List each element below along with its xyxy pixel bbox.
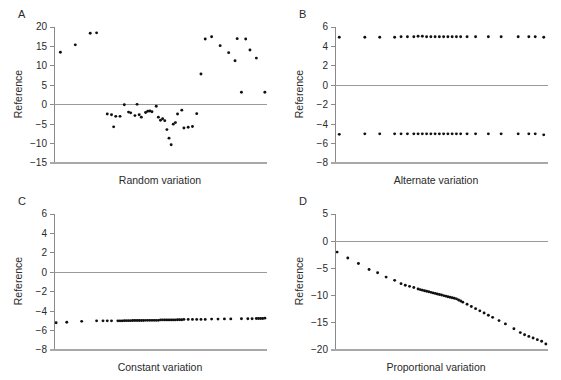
data-point	[182, 318, 185, 321]
data-point	[219, 44, 222, 47]
data-point	[263, 91, 266, 94]
data-point	[474, 35, 477, 38]
data-point	[542, 36, 545, 39]
data-point	[210, 35, 213, 38]
data-point	[110, 319, 113, 322]
data-point	[466, 35, 469, 38]
data-point	[129, 111, 132, 114]
data-point	[527, 35, 530, 38]
figure-canvas: A Reference 20151050−5−10−15 Random vari…	[0, 0, 561, 380]
y-tick-label: −15	[30, 157, 47, 168]
y-tick-label: 20	[36, 21, 48, 32]
data-point	[438, 35, 441, 38]
y-tick-label: 2	[41, 247, 47, 258]
y-tick-label: 5	[322, 208, 328, 219]
data-point	[157, 116, 160, 119]
data-point	[227, 51, 230, 54]
data-point	[244, 38, 247, 41]
data-point	[80, 320, 83, 323]
y-tick-label: −2	[317, 99, 329, 110]
y-tick-label: 0	[322, 236, 328, 247]
data-point	[55, 321, 58, 324]
data-point	[421, 35, 424, 38]
data-point	[487, 35, 490, 38]
y-tick-label: 2	[322, 60, 328, 71]
data-point	[540, 340, 543, 343]
data-point	[65, 321, 68, 324]
data-point	[170, 143, 173, 146]
y-tick-label: 6	[322, 21, 328, 32]
data-point	[95, 31, 98, 34]
panel-c-xlabel: Constant variation	[60, 361, 260, 373]
data-point	[59, 51, 62, 54]
data-point	[408, 285, 411, 288]
data-point	[455, 132, 458, 135]
data-point	[200, 318, 203, 321]
data-point	[378, 36, 381, 39]
data-point	[412, 35, 415, 38]
data-point	[151, 110, 154, 113]
y-tick-label: −10	[311, 290, 328, 301]
data-point	[168, 137, 171, 140]
y-tick-label: 6	[41, 208, 47, 219]
data-point	[434, 132, 437, 135]
data-point	[417, 132, 420, 135]
data-point	[363, 36, 366, 39]
data-point	[106, 113, 109, 116]
data-point	[425, 132, 428, 135]
data-point	[138, 113, 141, 116]
data-point	[95, 319, 98, 322]
data-point	[182, 127, 185, 130]
data-point	[474, 307, 477, 310]
panel-d-xlabel: Proportional variation	[336, 361, 536, 373]
data-point	[376, 271, 379, 274]
data-point	[519, 331, 522, 334]
panel-b: B Reference 6420−2−4−6−8 Alternate varia…	[281, 0, 561, 190]
data-point	[466, 132, 469, 135]
y-tick-label: −5	[317, 263, 329, 274]
data-point	[406, 35, 409, 38]
data-point	[478, 309, 481, 312]
data-point	[523, 333, 526, 336]
panel-c-plot: 6420−2−4−6−8	[20, 207, 270, 362]
data-point	[161, 117, 164, 120]
data-point	[195, 112, 198, 115]
data-point	[110, 113, 113, 116]
panel-b-xlabel: Alternate variation	[336, 174, 536, 186]
y-tick-label: 4	[322, 41, 328, 52]
panel-a-letter: A	[18, 8, 26, 20]
y-tick-label: −20	[311, 344, 328, 355]
data-point	[195, 318, 198, 321]
y-tick-label: −8	[317, 157, 329, 168]
data-point	[114, 115, 117, 118]
panel-d-letter: D	[299, 195, 307, 207]
data-point	[246, 317, 249, 320]
y-tick-label: −10	[30, 138, 47, 149]
data-point	[534, 132, 537, 135]
data-point	[544, 343, 547, 346]
data-point	[421, 132, 424, 135]
panel-b-letter: B	[299, 8, 307, 20]
data-point	[191, 318, 194, 321]
data-point	[251, 317, 254, 320]
data-point	[236, 37, 239, 40]
data-point	[346, 257, 349, 260]
data-point	[378, 132, 381, 135]
data-point	[451, 35, 454, 38]
data-point	[338, 133, 341, 136]
data-point	[240, 317, 243, 320]
data-point	[459, 35, 462, 38]
y-tick-label: 4	[41, 228, 47, 239]
data-point	[455, 35, 458, 38]
data-point	[136, 103, 139, 106]
data-point	[517, 132, 520, 135]
data-point	[466, 303, 469, 306]
panel-b-plot: 6420−2−4−6−8	[301, 20, 551, 175]
data-point	[442, 132, 445, 135]
data-point	[187, 126, 190, 129]
data-point	[89, 32, 92, 35]
data-point	[536, 338, 539, 341]
data-point	[187, 318, 190, 321]
data-point	[442, 35, 445, 38]
data-point	[180, 109, 183, 112]
